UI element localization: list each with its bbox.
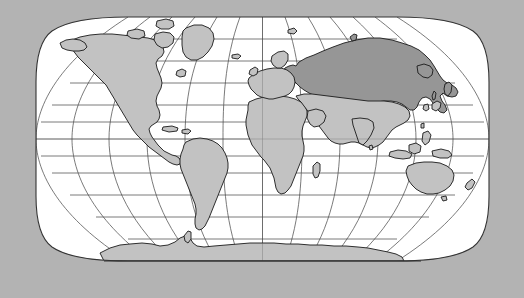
land-borneo[interactable] — [409, 143, 421, 154]
land-taiwan[interactable] — [421, 123, 424, 128]
world-map-figure — [0, 0, 524, 298]
land-victoria-island[interactable] — [127, 29, 145, 39]
land-sri-lanka[interactable] — [369, 145, 373, 150]
world-map-svg[interactable] — [0, 0, 524, 298]
land-ellesmere-island[interactable] — [156, 19, 174, 29]
land-cuba[interactable] — [162, 126, 178, 132]
land-korea[interactable] — [423, 104, 429, 111]
